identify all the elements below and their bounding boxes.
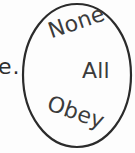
- label-all: All: [82, 60, 110, 82]
- diagram-canvas: e. None All Obey: [0, 0, 135, 153]
